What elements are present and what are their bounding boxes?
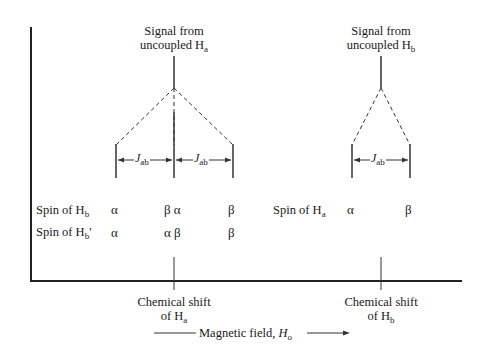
spin-value: β α <box>164 202 181 218</box>
signal-hb-title: Signal from uncoupled Hb <box>331 24 431 56</box>
spin-value: β <box>228 202 235 218</box>
spin-row-label-hb: Spin of Hb <box>36 203 89 219</box>
spin-value: α <box>347 202 354 218</box>
magnetic-field-label: Magnetic field, Ho <box>199 326 292 342</box>
spin-value: α <box>111 202 118 218</box>
spin-value: α <box>111 225 118 241</box>
signal-ha-title: Signal from uncoupled Ha <box>124 24 224 56</box>
coupling-constant-label: Jab <box>193 151 209 167</box>
chemical-shift-hb-label: Chemical shift of Hb <box>331 295 431 327</box>
spin-value: β <box>405 202 412 218</box>
coupling-constant-label: Jab <box>370 151 386 167</box>
spin-row-label-ha: Spin of Ha <box>273 203 326 219</box>
chemical-shift-ha-label: Chemical shift of Ha <box>124 295 224 327</box>
spin-row-label-hb-prime: Spin of Hb' <box>36 225 91 241</box>
spin-value: α β <box>164 225 181 241</box>
spin-value: β <box>228 225 235 241</box>
coupling-constant-label: Jab <box>134 151 150 167</box>
